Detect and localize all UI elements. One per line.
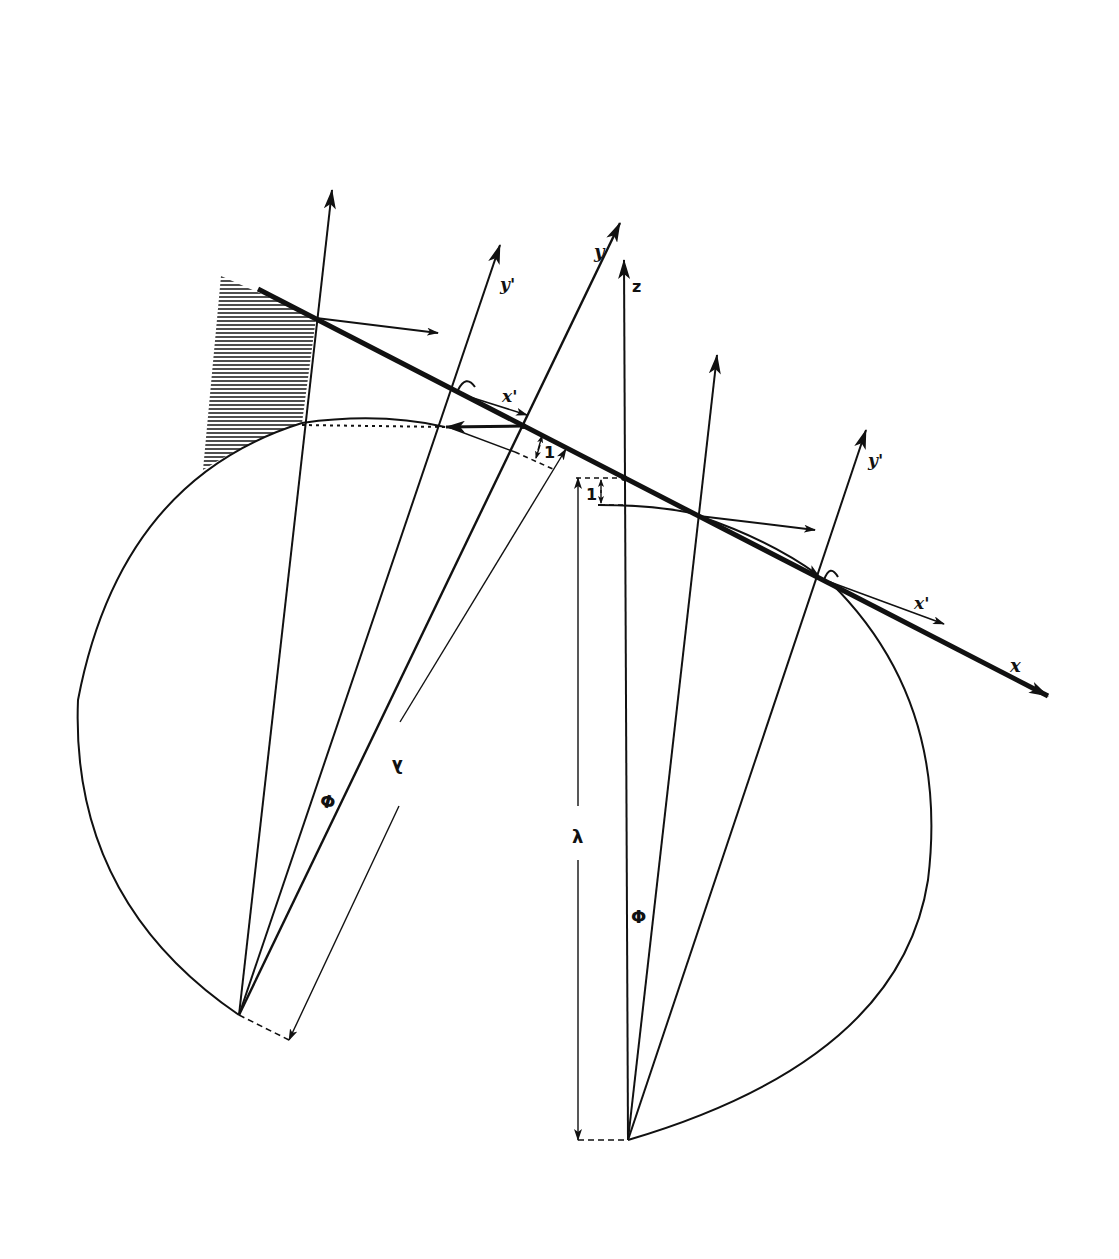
left-disk-arc [78,418,445,1015]
unit-arrow-left-up [538,436,542,450]
label-y: y [593,241,606,262]
angle-marker-2 [824,571,838,580]
label-lambda-left: λ [392,756,403,777]
label-unit-right: 1 [586,485,597,504]
x-axis-line [258,289,1048,696]
label-phi-right: Φ [631,906,646,927]
lambda-dim-left-base [239,1015,289,1040]
lambda-dim-left-upper [400,449,566,722]
right-radial-3 [628,430,866,1140]
label-x-prime-2: x' [913,593,929,613]
label-x: x [1009,655,1021,676]
left-disk-dotted-chord [302,425,445,427]
contact-point-1 [520,423,526,429]
hatched-wall [203,276,316,470]
label-y-prime-1: y' [499,274,515,294]
left-disk-offset-line [448,427,515,452]
label-x-prime-1: x' [501,386,517,406]
label-z: z [632,277,641,296]
z-axis-line [624,260,628,1140]
label-y-prime-2: y' [867,450,883,470]
label-unit-left: 1 [544,443,555,462]
right-radial-2 [628,355,717,1140]
lambda-dim-left-lower [289,806,399,1040]
force-arrow-left-back [446,426,523,427]
angle-marker-1 [458,381,475,390]
label-phi-left: Φ [318,789,338,813]
label-lambda-right: λ [572,826,583,847]
diagram-canvas: x y z y' x' y' x' 1 1 λ λ Φ Φ [0,0,1119,1259]
